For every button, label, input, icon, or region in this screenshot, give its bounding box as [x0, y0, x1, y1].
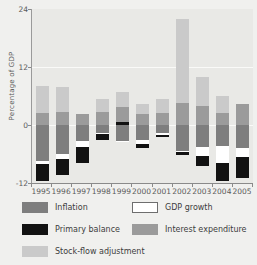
- plot-area: [31, 9, 253, 183]
- bar-segment-2000-inflation: [136, 125, 149, 140]
- bar-segment-1998-stock-flow-adjustment: [96, 99, 109, 112]
- legend-label-inflation: Inflation: [55, 203, 88, 212]
- legend-item-inflation: Inflation: [22, 202, 88, 213]
- x-tick-label-1996: 1996: [50, 187, 72, 196]
- x-tick-sep-3: [91, 184, 92, 187]
- legend-label-gdp-growth: GDP growth: [165, 203, 213, 212]
- bar-segment-2004-primary-balance: [216, 163, 229, 181]
- bar-segment-2005-primary-balance: [236, 157, 249, 178]
- bar-segment-2003-gdp-growth: [196, 147, 209, 157]
- bar-segment-2004-interest-expenditure: [216, 113, 229, 125]
- bar-1997: [76, 9, 89, 183]
- y-tick-label-0: 0: [2, 121, 28, 130]
- bar-segment-2001-primary-balance: [156, 135, 169, 137]
- legend-label-interest-expenditure: Interest expenditure: [165, 225, 247, 234]
- x-tick-label-1995: 1995: [30, 187, 52, 196]
- x-axis-tick-labels: 1995199619971998199920002001200220032004…: [31, 184, 253, 196]
- bar-1996: [56, 9, 69, 183]
- bar-segment-2005-inflation: [236, 125, 249, 148]
- bar-segment-2003-stock-flow-adjustment: [196, 77, 209, 106]
- y-tick-label-12: 12: [2, 63, 28, 72]
- bar-1999: [116, 9, 129, 183]
- x-tick-sep-7: [172, 184, 173, 187]
- bar-segment-1997-interest-expenditure: [76, 114, 89, 125]
- bar-segment-2005-gdp-growth: [236, 148, 249, 158]
- bar-segment-2004-gdp-growth: [216, 146, 229, 163]
- bar-segment-1996-stock-flow-adjustment: [56, 87, 69, 112]
- bar-segment-1996-interest-expenditure: [56, 112, 69, 125]
- bar-segment-2003-inflation: [196, 125, 209, 147]
- bar-2002: [176, 9, 189, 183]
- bar-segment-2003-interest-expenditure: [196, 106, 209, 125]
- legend-item-gdp-growth: GDP growth: [132, 202, 213, 213]
- legend-item-interest-expenditure: Interest expenditure: [132, 224, 247, 235]
- x-tick-label-2005: 2005: [231, 187, 253, 196]
- bar-segment-1998-interest-expenditure: [96, 112, 109, 125]
- legend-swatch-gdp-growth: [132, 202, 158, 213]
- x-tick-sep-2: [71, 184, 72, 187]
- bar-segment-1999-gdp-growth: [116, 141, 129, 142]
- bar-2003: [196, 9, 209, 183]
- chart-legend: Inflation GDP growth Primary balance Int…: [22, 202, 257, 262]
- y-axis: Percentage of GDP 24 12 0 -12: [0, 0, 28, 196]
- x-tick-sep-8: [192, 184, 193, 187]
- legend-label-stock-flow-adjustment: Stock-flow adjustment: [55, 247, 145, 256]
- bar-segment-2004-inflation: [216, 125, 229, 146]
- y-tick-label-24: 24: [2, 5, 28, 14]
- x-tick-sep-9: [212, 184, 213, 187]
- bar-segment-1998-inflation: [96, 125, 109, 133]
- x-tick-label-2001: 2001: [151, 187, 173, 196]
- x-tick-sep-5: [131, 184, 132, 187]
- legend-item-primary-balance: Primary balance: [22, 224, 120, 235]
- bar-1998: [96, 9, 109, 183]
- bar-segment-2002-inflation: [176, 125, 189, 151]
- bar-segment-1997-primary-balance: [76, 147, 89, 163]
- x-tick-label-2000: 2000: [131, 187, 153, 196]
- x-tick-sep-last: [252, 184, 253, 187]
- legend-item-stock-flow-adjustment: Stock-flow adjustment: [22, 246, 145, 257]
- bar-segment-1999-primary-balance: [116, 122, 129, 125]
- x-tick-label-1998: 1998: [90, 187, 112, 196]
- bar-1995: [36, 9, 49, 183]
- bar-segment-2002-stock-flow-adjustment: [176, 19, 189, 104]
- bar-segment-1995-stock-flow-adjustment: [36, 86, 49, 113]
- bar-2004: [216, 9, 229, 183]
- x-tick-label-2004: 2004: [211, 187, 233, 196]
- x-tick-label-1997: 1997: [70, 187, 92, 196]
- x-tick-label-2002: 2002: [171, 187, 193, 196]
- y-tick-label-neg12: -12: [2, 179, 28, 188]
- bar-segment-2005-interest-expenditure: [236, 104, 249, 125]
- bar-segment-2001-stock-flow-adjustment: [156, 99, 169, 113]
- bar-segment-1996-inflation: [56, 125, 69, 154]
- bar-2000: [136, 9, 149, 183]
- bar-segment-2000-primary-balance: [136, 144, 149, 148]
- x-tick-sep-1: [51, 184, 52, 187]
- bar-segment-1997-inflation: [76, 125, 89, 141]
- x-tick-sep-0: [31, 184, 32, 187]
- bar-segment-1999-interest-expenditure: [116, 107, 129, 122]
- plot-region: Percentage of GDP 24 12 0 -12 1995199619…: [0, 0, 257, 196]
- bar-segment-2002-interest-expenditure: [176, 103, 189, 125]
- bar-segment-2003-primary-balance: [196, 156, 209, 166]
- legend-swatch-inflation: [22, 202, 48, 213]
- bar-segment-2000-interest-expenditure: [136, 114, 149, 125]
- bar-segment-2002-primary-balance: [176, 152, 189, 155]
- stacked-bar-chart: Percentage of GDP 24 12 0 -12 1995199619…: [0, 0, 257, 265]
- bar-segment-1999-inflation: [116, 125, 129, 141]
- x-tick-label-1999: 1999: [110, 187, 132, 196]
- bar-segment-2001-interest-expenditure: [156, 113, 169, 125]
- legend-swatch-primary-balance: [22, 224, 48, 235]
- bar-segment-1995-inflation: [36, 125, 49, 161]
- x-tick-label-2003: 2003: [191, 187, 213, 196]
- bar-segment-1998-primary-balance: [96, 134, 109, 140]
- x-tick-sep-4: [111, 184, 112, 187]
- bar-segment-1996-primary-balance: [56, 159, 69, 175]
- legend-swatch-interest-expenditure: [132, 224, 158, 235]
- legend-label-primary-balance: Primary balance: [55, 225, 120, 234]
- x-tick-sep-10: [232, 184, 233, 187]
- bar-2005: [236, 9, 249, 183]
- bar-segment-1995-interest-expenditure: [36, 113, 49, 125]
- bar-segment-1995-primary-balance: [36, 164, 49, 180]
- bar-segment-2001-inflation: [156, 125, 169, 133]
- bar-segment-2004-stock-flow-adjustment: [216, 96, 229, 113]
